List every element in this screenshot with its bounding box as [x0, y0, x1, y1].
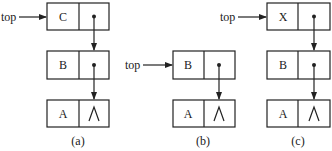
node-data: A — [59, 107, 68, 121]
panel-caption: (c) — [291, 134, 304, 148]
node-box — [47, 3, 109, 30]
node-data: A — [184, 107, 193, 121]
top-pointer-label: top — [220, 10, 235, 24]
panel-a: top C B A (a) — [1, 3, 109, 148]
node-b: B — [173, 51, 235, 79]
node-c: C — [47, 3, 109, 30]
node-data: B — [279, 58, 287, 72]
node-data: C — [59, 10, 67, 24]
node-box — [47, 51, 109, 79]
node-data: B — [59, 58, 67, 72]
node-b: B — [267, 51, 330, 79]
node-a: A — [173, 100, 235, 127]
node-a: A — [267, 100, 330, 127]
node-b: B — [47, 51, 109, 79]
top-pointer-label: top — [1, 10, 16, 24]
node-data: X — [279, 10, 288, 24]
top-pointer-label: top — [125, 58, 140, 72]
panel-c: top X B A (c) — [220, 3, 330, 148]
node-x: X — [267, 3, 330, 30]
linked-stack-diagram: top C B A (a) top — [0, 0, 332, 151]
node-a: A — [47, 100, 109, 127]
panel-caption: (b) — [196, 134, 210, 148]
node-data: B — [184, 58, 192, 72]
panel-caption: (a) — [71, 134, 84, 148]
node-data: A — [279, 107, 288, 121]
node-box — [47, 100, 109, 127]
panel-b: top B A (b) — [125, 51, 235, 148]
